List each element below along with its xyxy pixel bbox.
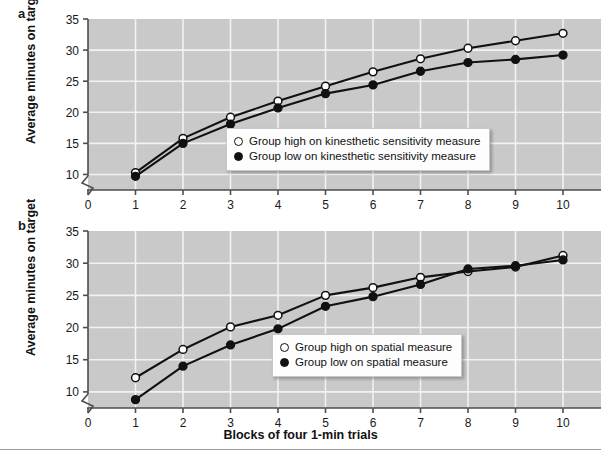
x-axis-title: Blocks of four 1-min trials <box>0 428 601 442</box>
y-tick-label: 25 <box>66 289 80 303</box>
y-tick-label: 20 <box>66 106 80 120</box>
figure-container: a Average minutes on target 101520253035… <box>0 0 601 468</box>
x-tick-label: 0 <box>85 198 92 212</box>
data-point-open <box>417 55 425 63</box>
panel-a-legend: Group high on kinesthetic sensitivity me… <box>226 128 490 171</box>
data-point-filled <box>369 293 377 301</box>
x-tick-label: 3 <box>227 198 234 212</box>
bottom-divider <box>0 449 601 450</box>
x-tick-label: 6 <box>370 198 377 212</box>
y-tick-label: 25 <box>66 75 80 89</box>
legend-row-low: Group low on kinesthetic sensitivity mea… <box>234 149 480 164</box>
legend-label-low: Group low on kinesthetic sensitivity mea… <box>249 149 476 164</box>
data-point-filled <box>132 172 140 180</box>
data-point-filled <box>559 256 567 264</box>
data-point-open <box>322 82 330 90</box>
x-tick-label: 7 <box>417 198 424 212</box>
data-point-filled <box>322 302 330 310</box>
data-point-filled <box>274 325 282 333</box>
panel-a-plot: 101520253035012345678910 <box>0 0 601 215</box>
data-point-open <box>369 284 377 292</box>
x-tick-label: 4 <box>275 198 282 212</box>
y-tick-label: 10 <box>66 168 80 182</box>
legend-row-high: Group high on kinesthetic sensitivity me… <box>234 134 480 149</box>
data-point-filled <box>322 90 330 98</box>
data-point-filled <box>179 139 187 147</box>
filled-circle-icon <box>280 358 289 367</box>
y-tick-label: 10 <box>66 385 80 399</box>
panel-b-plot: 101520253035012345678910 <box>0 212 601 437</box>
legend-label-high: Group high on spatial measure <box>295 340 452 355</box>
data-point-open <box>512 37 520 45</box>
data-point-filled <box>179 362 187 370</box>
panel-a: a Average minutes on target 101520253035… <box>0 0 601 215</box>
data-point-filled <box>417 67 425 75</box>
data-point-open <box>559 29 567 37</box>
data-point-open <box>369 68 377 76</box>
legend-row-low: Group low on spatial measure <box>280 355 452 370</box>
data-point-filled <box>464 59 472 67</box>
data-point-open <box>132 374 140 382</box>
x-tick-label: 2 <box>180 198 187 212</box>
data-point-open <box>227 323 235 331</box>
legend-label-low: Group low on spatial measure <box>295 355 448 370</box>
y-tick-label: 15 <box>66 353 80 367</box>
panel-b-legend: Group high on spatial measure Group low … <box>272 334 462 377</box>
x-tick-label: 10 <box>556 198 570 212</box>
x-tick-label: 9 <box>512 198 519 212</box>
data-point-filled <box>417 281 425 289</box>
plot-background <box>88 231 601 408</box>
data-point-filled <box>464 265 472 273</box>
data-point-filled <box>512 262 520 270</box>
legend-row-high: Group high on spatial measure <box>280 340 452 355</box>
data-point-filled <box>227 341 235 349</box>
data-point-open <box>274 311 282 319</box>
data-point-filled <box>132 396 140 404</box>
y-tick-label: 15 <box>66 137 80 151</box>
y-tick-label: 30 <box>66 257 80 271</box>
y-tick-label: 35 <box>66 13 80 27</box>
data-point-open <box>464 44 472 52</box>
data-point-filled <box>369 81 377 89</box>
open-circle-icon <box>234 137 243 146</box>
data-point-filled <box>274 104 282 112</box>
x-tick-label: 5 <box>322 198 329 212</box>
data-point-open <box>322 291 330 299</box>
x-tick-label: 8 <box>465 198 472 212</box>
panel-b: b Average minutes on target 101520253035… <box>0 212 601 437</box>
y-tick-label: 20 <box>66 321 80 335</box>
open-circle-icon <box>280 343 289 352</box>
data-point-filled <box>227 120 235 128</box>
data-point-filled <box>559 51 567 59</box>
y-tick-label: 35 <box>66 225 80 239</box>
legend-label-high: Group high on kinesthetic sensitivity me… <box>249 134 480 149</box>
y-tick-label: 30 <box>66 44 80 58</box>
data-point-filled <box>512 56 520 64</box>
x-tick-label: 1 <box>132 198 139 212</box>
filled-circle-icon <box>234 152 243 161</box>
data-point-open <box>179 346 187 354</box>
